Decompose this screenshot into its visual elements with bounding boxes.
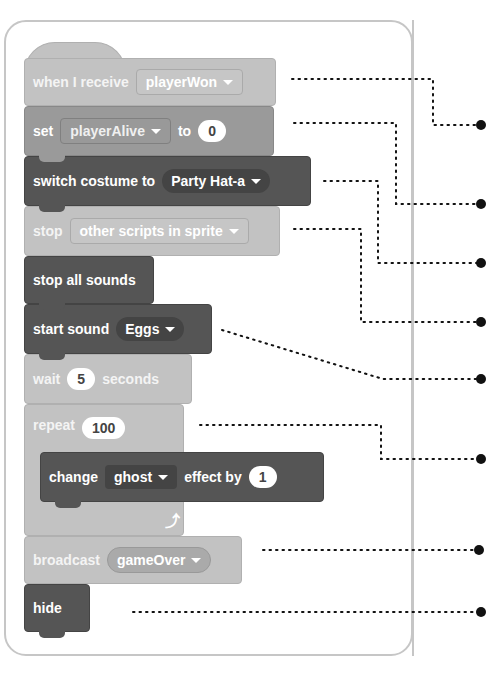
callout-lines	[0, 0, 503, 676]
block-notch	[39, 631, 65, 638]
block-notch	[55, 501, 81, 508]
bullet-dot-icons	[474, 120, 486, 617]
block-notch	[39, 205, 65, 212]
block-notch	[39, 155, 65, 162]
block-notch	[39, 353, 65, 360]
block-notch	[39, 303, 65, 310]
